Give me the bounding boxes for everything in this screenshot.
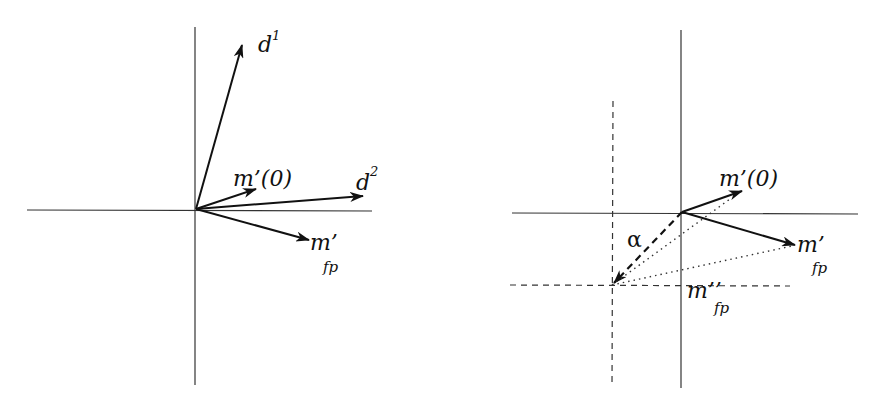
left-panel: d1 d2 m’(0) m’ fp — [27, 27, 378, 385]
label-mfp: m’ — [310, 230, 338, 255]
label-mfp2-sub: fp — [713, 299, 730, 317]
diagram-canvas: d1 d2 m’(0) m’ fp m’(0) m’ fp m’’ fp α — [0, 0, 878, 413]
label-d1: d1 — [258, 28, 280, 57]
label-m0: m’(0) — [233, 166, 292, 191]
label-mfp-sub: fp — [322, 258, 339, 276]
vector-d2 — [196, 196, 363, 209]
label-alpha: α — [627, 227, 642, 252]
label-mfp-right: m’ — [797, 232, 825, 257]
label-d2: d2 — [356, 164, 378, 195]
label-mfp-right-sub: fp — [811, 259, 828, 277]
shifted-x-axis — [510, 285, 790, 286]
vector-mfp — [196, 209, 309, 240]
vector-m0-right — [682, 191, 742, 212]
label-m0-right: m’(0) — [719, 166, 778, 191]
shifted-y-axis — [612, 101, 613, 387]
vector-mfp-right — [682, 212, 795, 245]
right-panel: m’(0) m’ fp m’’ fp α — [510, 30, 858, 388]
